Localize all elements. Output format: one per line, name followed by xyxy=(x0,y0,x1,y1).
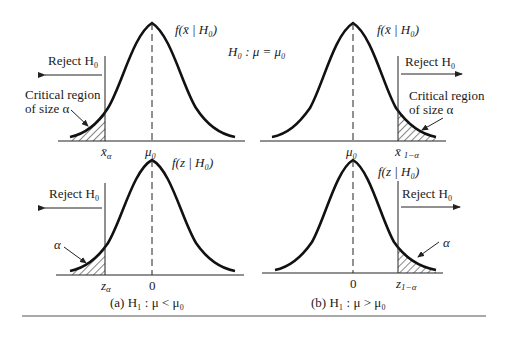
critical-pointer-arrow xyxy=(71,110,88,126)
panel-top-left: Reject H₀ Critical region of size α f(x̄… xyxy=(25,22,245,161)
mean-tick-label: μ₀ xyxy=(345,144,357,159)
caption-a: (a) H₁ : μ < μ₀ xyxy=(110,295,184,310)
zero-tick-label: 0 xyxy=(350,276,357,291)
critical-region-label: Critical region xyxy=(409,88,485,103)
reject-label: Reject H₀ xyxy=(49,186,99,201)
density-curve xyxy=(272,23,436,137)
critical-size-label: of size α xyxy=(25,101,70,116)
hypothesis-test-diagram: Reject H₀ Critical region of size α f(x̄… xyxy=(0,0,511,337)
critical-size-label: of size α xyxy=(409,102,454,117)
critical-pointer-arrow xyxy=(422,118,443,130)
density-label: f(z | H₀) xyxy=(378,164,419,179)
panel-bottom-right: Reject H₀ α f(z | H₀) 0 z1−α xyxy=(262,160,460,292)
cutoff-tick-label: zα xyxy=(100,278,111,294)
caption-b: (b) H₁ : μ > μ₀ xyxy=(311,295,386,310)
critical-region-label: Critical region xyxy=(25,87,101,102)
alpha-label: α xyxy=(443,235,451,250)
density-label: f(x̄ | H₀) xyxy=(377,22,419,37)
reject-label: Reject H₀ xyxy=(405,54,455,69)
alpha-pointer-arrow xyxy=(418,242,439,257)
zero-tick-label: 0 xyxy=(149,278,156,293)
cutoff-tick-label: x̄α xyxy=(100,144,112,161)
panel-top-right: Reject H₀ Critical region of size α f(x̄… xyxy=(260,22,485,160)
density-label: f(z | H₀) xyxy=(172,155,213,170)
reject-label: Reject H₀ xyxy=(402,186,452,201)
alpha-pointer-arrow xyxy=(64,247,86,263)
density-label: f(x̄ | H₀) xyxy=(175,22,217,37)
null-hypothesis-label: H₀ : μ = μ₀ xyxy=(227,44,286,59)
reject-label: Reject H₀ xyxy=(48,53,98,68)
alpha-label: α xyxy=(54,237,62,252)
cutoff-tick-label: z1−α xyxy=(395,276,417,292)
panel-bottom-left: Reject H₀ α f(z | H₀) 0 zα xyxy=(45,155,244,294)
cutoff-tick-label: x̄1−α xyxy=(394,144,419,160)
mean-tick-label: μ₀ xyxy=(144,144,156,159)
